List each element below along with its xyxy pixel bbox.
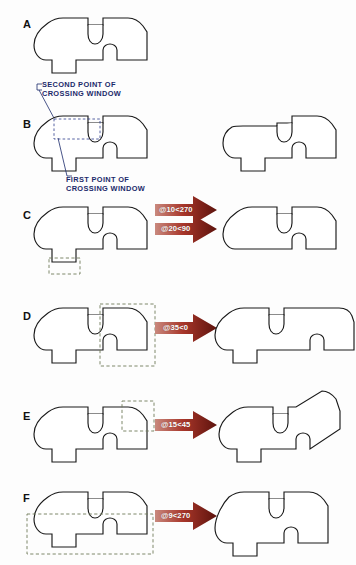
panel-c: C @20<90 bbox=[0, 195, 356, 285]
panel-f-shape bbox=[25, 488, 163, 562]
panel-b-result bbox=[222, 114, 352, 176]
annotation-first-point-leader bbox=[56, 136, 96, 182]
panel-e-arrow-label: @15<45 bbox=[161, 420, 190, 429]
panel-e-label: E bbox=[23, 410, 31, 422]
panel-d: D @35<0 bbox=[0, 288, 356, 378]
panel-b-shape bbox=[33, 114, 163, 176]
panel-d-label: D bbox=[23, 310, 31, 322]
panel-d-result bbox=[214, 300, 356, 370]
panel-f-result bbox=[214, 488, 352, 562]
panel-d-shape bbox=[33, 300, 163, 370]
panel-e: E @15<45 bbox=[0, 383, 356, 475]
panel-a-shape bbox=[33, 16, 163, 78]
panel-c-arrow-label: @20<90 bbox=[161, 224, 190, 233]
panel-b: SECOND POINT OF CROSSING WINDOW B FIRST … bbox=[0, 78, 356, 190]
panel-f: F @9<270 bbox=[0, 480, 356, 565]
panel-c-result bbox=[222, 205, 352, 281]
panel-a-label: A bbox=[23, 18, 31, 30]
panel-b-label: B bbox=[23, 118, 31, 130]
panel-d-arrow-label: @35<0 bbox=[163, 323, 188, 332]
panel-e-shape bbox=[33, 397, 163, 467]
panel-a: A bbox=[0, 0, 356, 78]
panel-c-label: C bbox=[23, 209, 31, 221]
panel-f-arrow-label: @9<270 bbox=[161, 511, 190, 520]
panel-c-shape bbox=[33, 205, 163, 281]
panel-e-result bbox=[218, 389, 356, 467]
